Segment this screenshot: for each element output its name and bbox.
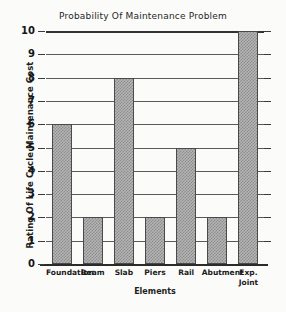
y-tick-label: 3 <box>28 189 35 199</box>
plot-area: 012345678910 <box>46 31 264 266</box>
y-tick-mark <box>38 54 45 55</box>
y-tick-mark-right <box>264 78 271 79</box>
y-tick-label: 6 <box>28 119 35 129</box>
y-tick-label: 9 <box>28 49 35 59</box>
y-tick-mark <box>38 124 45 125</box>
y-tick-mark-right <box>264 124 271 125</box>
y-tick-mark-right <box>264 148 271 149</box>
bar <box>176 148 196 265</box>
y-tick-label: 4 <box>28 166 35 176</box>
y-tick-mark <box>38 264 45 265</box>
chart-title: Probability Of Maintenance Problem <box>0 11 286 21</box>
x-tick-label: Beam <box>77 268 108 278</box>
bar <box>83 217 103 264</box>
x-tick-label: Abutment <box>202 268 233 278</box>
y-tick-mark-right <box>264 54 271 55</box>
x-axis-label: Elements <box>46 287 264 296</box>
x-tick-label: Rail <box>171 268 202 278</box>
y-tick-label: 8 <box>28 73 35 83</box>
y-tick-label: 0 <box>28 259 35 269</box>
bar <box>207 217 227 264</box>
x-tick-label: Piers <box>139 268 170 278</box>
bar <box>114 78 134 264</box>
bar <box>238 31 258 264</box>
y-tick-mark-right <box>264 171 271 172</box>
y-tick-mark-right <box>264 194 271 195</box>
y-tick-mark-right <box>264 31 271 32</box>
y-tick-label: 10 <box>21 26 35 36</box>
y-tick-label: 2 <box>28 212 35 222</box>
y-tick-label: 5 <box>28 143 35 153</box>
y-tick-label: 7 <box>28 96 35 106</box>
bars-group <box>46 31 264 264</box>
y-tick-mark <box>38 194 45 195</box>
y-tick-label: 1 <box>28 236 35 246</box>
bar <box>52 124 72 264</box>
y-tick-mark <box>38 217 45 218</box>
y-tick-mark <box>38 31 45 32</box>
axis-bottom-spine <box>40 264 268 266</box>
y-tick-mark-right <box>264 101 271 102</box>
bar-chart-figure: Probability Of Maintenance Problem Ratin… <box>0 0 286 312</box>
y-tick-mark-right <box>264 241 271 242</box>
y-tick-mark-right <box>264 217 271 218</box>
bar <box>145 217 165 264</box>
x-tick-label: Slab <box>108 268 139 278</box>
x-tick-label: Exp. Joint <box>233 268 264 288</box>
y-tick-mark <box>38 148 45 149</box>
x-tick-label: Foundation <box>46 268 77 278</box>
y-tick-mark <box>38 101 45 102</box>
y-tick-mark <box>38 241 45 242</box>
y-tick-mark <box>38 78 45 79</box>
y-tick-mark <box>38 171 45 172</box>
